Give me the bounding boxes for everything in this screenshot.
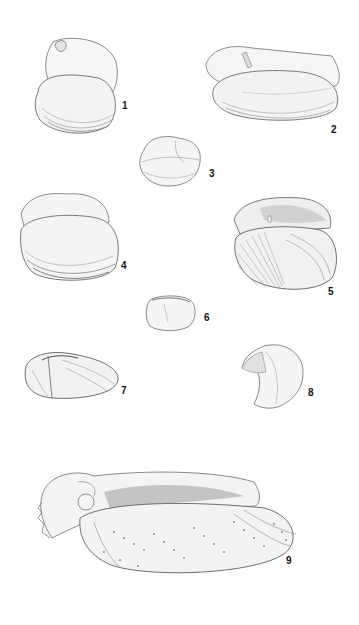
shell-figure-7 xyxy=(22,350,122,402)
figure-label-1: 1 xyxy=(122,100,128,111)
shell-figure-8 xyxy=(240,342,310,412)
shell-figure-6 xyxy=(144,294,198,332)
figure-label-9: 9 xyxy=(286,555,292,566)
figure-label-4: 4 xyxy=(121,260,127,271)
figure-label-6: 6 xyxy=(204,312,210,323)
shell-figure-2 xyxy=(202,42,342,127)
figure-label-3: 3 xyxy=(209,168,215,179)
shell-plate: 1 2 3 4 xyxy=(0,0,359,625)
shell-figure-5 xyxy=(230,194,340,294)
figure-label-7: 7 xyxy=(121,385,127,396)
shell-figure-9 xyxy=(34,462,302,582)
figure-label-8: 8 xyxy=(308,387,314,398)
figure-label-2: 2 xyxy=(331,124,337,135)
shell-figure-4 xyxy=(17,190,122,282)
figure-label-5: 5 xyxy=(328,286,334,297)
shell-figure-1 xyxy=(28,34,123,134)
shell-figure-3 xyxy=(138,132,206,188)
